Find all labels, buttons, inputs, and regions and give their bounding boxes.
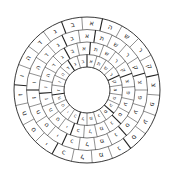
letter-cell: ש xyxy=(104,50,110,57)
letter-cell: נ xyxy=(97,113,101,119)
letter-cell: ט xyxy=(42,122,50,130)
letter-cell: ז xyxy=(16,93,24,97)
sector-divider xyxy=(116,26,122,37)
letter-cell: ל xyxy=(80,152,85,160)
sector-divider xyxy=(78,30,80,42)
sector-divider xyxy=(16,103,28,106)
letter-cell: צ xyxy=(137,80,144,85)
letter-cell: ד xyxy=(50,62,57,68)
sector-divider xyxy=(144,111,156,115)
sector-divider xyxy=(95,125,98,137)
sector-divider xyxy=(61,22,65,34)
letter-cell: ק xyxy=(131,64,140,71)
sector-divider xyxy=(35,133,44,142)
sector-divider xyxy=(70,123,74,135)
sector-divider xyxy=(19,64,31,68)
letter-cell: מ xyxy=(99,126,105,133)
letter-cell: פ xyxy=(137,95,144,100)
sector-divider xyxy=(146,74,158,77)
letter-cell: נ xyxy=(113,132,119,139)
letter-cell: כ xyxy=(76,128,80,135)
letter-cell: ב xyxy=(70,48,75,55)
sector-divider xyxy=(43,32,50,42)
sector-divider xyxy=(42,102,54,106)
letter-cell: ר xyxy=(113,57,119,63)
letter-cell: י xyxy=(65,109,70,114)
sector-divider xyxy=(120,73,132,77)
letter-cell: ע xyxy=(141,118,150,126)
letter-cell: ו xyxy=(42,86,48,88)
sector-divider xyxy=(99,45,103,57)
letter-cell: ו xyxy=(18,74,26,78)
letter-cell: י xyxy=(55,132,60,139)
sector-divider xyxy=(118,44,126,53)
letter-cell: א xyxy=(89,58,93,64)
letter-cell: ח xyxy=(56,96,63,101)
sector-divider xyxy=(52,93,64,95)
sector-divider xyxy=(122,98,134,101)
sector-divider xyxy=(82,17,83,29)
letter-cell: ט xyxy=(54,116,61,123)
letter-cell: ק xyxy=(111,79,119,85)
sector-divider xyxy=(29,73,41,77)
sector-divider xyxy=(127,57,138,64)
sector-divider xyxy=(108,147,112,159)
letter-cell: ט xyxy=(59,103,66,109)
letter-cell: צ xyxy=(113,89,119,92)
letter-cell: פ xyxy=(125,91,131,95)
letter-cell: ת xyxy=(93,46,98,53)
sector-divider xyxy=(39,93,51,94)
sector-divider xyxy=(77,43,80,55)
sector-divider xyxy=(47,44,55,53)
sector-divider xyxy=(52,85,64,87)
sector-divider xyxy=(14,85,26,86)
sector-divider xyxy=(133,73,145,77)
sector-divider xyxy=(29,104,41,108)
letter-wheel-diagram: אתשרקצפעסנמלכיטחזוהדגבתשרקצפעסנמלכיטחזוה… xyxy=(0,0,175,179)
letter-cell: ס xyxy=(117,112,124,119)
letter-cell: ש xyxy=(113,40,121,49)
letter-cell: א xyxy=(89,19,94,27)
letter-cell: ו xyxy=(56,80,62,83)
letter-cell: פ xyxy=(112,96,119,101)
sector-divider xyxy=(123,138,130,148)
letter-cell: מ xyxy=(99,138,105,146)
sector-divider xyxy=(94,30,96,42)
letter-cell: ש xyxy=(123,32,132,41)
letter-cell: ד xyxy=(65,65,71,71)
letter-cell: א xyxy=(85,32,89,39)
letter-cell: מ xyxy=(89,116,93,122)
letter-cell: ה xyxy=(24,54,33,62)
sector-divider xyxy=(140,55,151,61)
sector-divider xyxy=(110,93,122,95)
letter-cell: ל xyxy=(88,129,92,135)
sector-divider xyxy=(36,116,47,123)
letter-cell: י xyxy=(65,124,69,130)
letter-cell: ד xyxy=(36,38,44,46)
sector-divider xyxy=(130,38,139,47)
letter-cell: כ xyxy=(69,138,74,146)
letter-cell: ב xyxy=(81,58,85,64)
letter-cell: כ xyxy=(60,148,67,157)
sector-divider xyxy=(100,19,103,31)
letter-cell: ד xyxy=(42,50,50,58)
sector-divider xyxy=(110,85,122,87)
letter-cell: כ xyxy=(72,113,77,120)
sector-divider xyxy=(47,126,55,135)
sector-divider xyxy=(93,56,97,68)
letter-cell: ס xyxy=(129,133,138,142)
sector-divider xyxy=(122,87,134,88)
letter-cell: ה xyxy=(44,72,51,78)
letter-cell: ג xyxy=(73,60,77,66)
sector-divider xyxy=(62,134,67,145)
sector-divider xyxy=(29,46,39,53)
sector-divider xyxy=(52,143,58,154)
sector-divider xyxy=(71,149,74,161)
letter-cell: צ xyxy=(125,79,132,84)
sector-divider xyxy=(133,104,145,108)
sector-divider xyxy=(107,134,112,145)
sector-divider xyxy=(91,150,92,162)
letter-cell: ל xyxy=(85,141,89,148)
letter-cell: ת xyxy=(99,34,105,42)
sector-divider xyxy=(78,138,80,150)
